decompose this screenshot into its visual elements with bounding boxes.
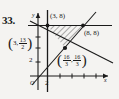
x-tick-label-2: 2	[45, 80, 49, 87]
fraction-numerator: 16	[63, 54, 71, 60]
y-axis-arrow	[36, 13, 41, 18]
y-tick-label-2: 2	[29, 57, 33, 64]
fraction-13-over-2: 13 2	[19, 37, 27, 50]
paren-close: )	[82, 53, 87, 68]
fraction-16-over-3-x: 16 3	[63, 54, 71, 67]
fraction-denominator: 3	[63, 60, 71, 67]
x-axis-label: x	[104, 77, 107, 83]
paren-close: )	[27, 36, 32, 51]
fraction-numerator: 16	[73, 54, 81, 60]
fraction-16-over-3-y: 16 3	[73, 54, 81, 67]
figure-container: 33.	[0, 0, 119, 99]
origin-label: O	[30, 80, 34, 86]
y-axis-label: y	[32, 12, 35, 18]
vertex-label-8-8: (8, 8)	[84, 30, 99, 37]
fraction-numerator: 13	[19, 37, 27, 43]
vertex-label-16-over-3: ( 16 3 , 16 3 )	[57, 53, 87, 68]
vertex-dot-8-8	[81, 24, 85, 28]
vertex-label-3-8: (3, 8)	[50, 13, 65, 20]
vertex-dot-16-3	[63, 46, 67, 50]
vertex-dot-3-8	[46, 24, 50, 28]
paren-open: (	[57, 53, 62, 68]
point-label-3-13-over-2: ( 3 , 13 2 )	[8, 36, 32, 51]
fraction-denominator: 3	[73, 60, 81, 67]
fraction-denominator: 2	[19, 43, 27, 50]
